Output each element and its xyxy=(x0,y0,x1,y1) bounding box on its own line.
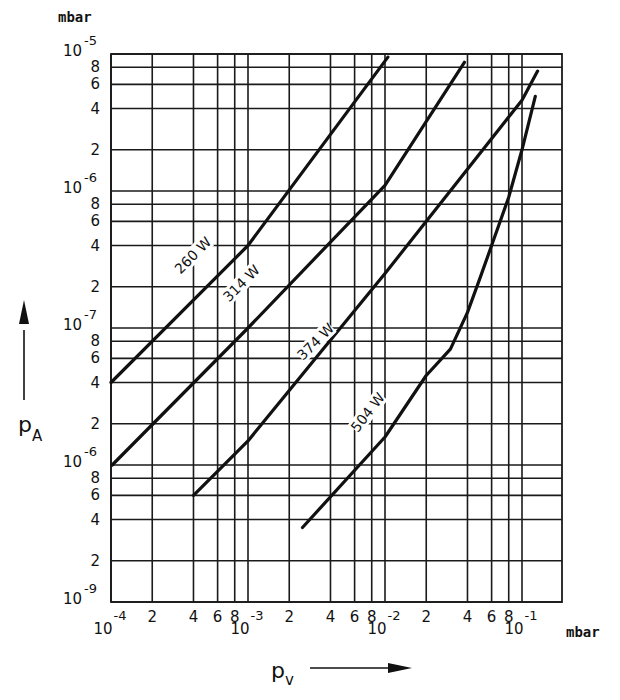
y-tick-label: 4 xyxy=(90,511,100,529)
y-tick-exponent: -5 xyxy=(84,33,97,48)
y-axis-arrow-icon xyxy=(19,300,29,324)
x-tick-label: 2 xyxy=(147,608,157,626)
curve-labels: 260 W314 W374 W504 W xyxy=(171,234,388,435)
chart: 260 W314 W374 W504 W 10-4246810-3246810-… xyxy=(0,0,620,700)
x-tick-label: 4 xyxy=(463,608,473,626)
y-unit-label: mbar xyxy=(58,9,92,25)
y-tick-exponent: -7 xyxy=(84,307,97,322)
y-tick-label: 10 xyxy=(63,179,82,197)
curve-label: 504 W xyxy=(348,390,388,435)
y-tick-label: 6 xyxy=(90,349,100,367)
y-tick-label: 10 xyxy=(63,590,82,608)
y-tick-label: 4 xyxy=(90,237,100,255)
y-tick-label: 8 xyxy=(90,195,100,213)
curve-504w xyxy=(303,96,536,527)
x-tick-label: 4 xyxy=(326,608,336,626)
x-tick-exponent: -1 xyxy=(525,608,538,623)
y-tick-label: 4 xyxy=(90,100,100,118)
y-axis-label: pA xyxy=(18,412,43,445)
y-tick-label: 2 xyxy=(90,552,100,570)
x-tick-label: 6 xyxy=(350,608,360,626)
x-tick-label: 4 xyxy=(189,608,199,626)
y-tick-label: 10 xyxy=(63,42,82,60)
x-tick-label: 6 xyxy=(213,608,223,626)
x-tick-label: 2 xyxy=(421,608,431,626)
y-tick-label: 8 xyxy=(90,332,100,350)
y-tick-label: 6 xyxy=(90,212,100,230)
y-tick-label: 2 xyxy=(90,278,100,296)
y-tick-label: 2 xyxy=(90,141,100,159)
y-axis-ticks: 10-5864210-6864210-7864210-6864210-9 xyxy=(63,33,100,608)
x-axis-title: pv xyxy=(271,658,412,689)
y-tick-label: 8 xyxy=(90,469,100,487)
y-tick-label: 6 xyxy=(90,75,100,93)
y-tick-label: 4 xyxy=(90,374,100,392)
y-tick-exponent: -9 xyxy=(84,581,97,596)
y-axis-title: pA xyxy=(18,300,43,445)
x-tick-exponent: -3 xyxy=(251,608,264,623)
y-tick-label: 6 xyxy=(90,486,100,504)
x-tick-label: 10 xyxy=(93,620,112,638)
curves xyxy=(111,57,538,527)
y-tick-label: 10 xyxy=(63,453,82,471)
x-axis-arrow-icon xyxy=(388,663,412,673)
curve-314w xyxy=(112,62,464,465)
y-tick-exponent: -6 xyxy=(84,170,97,185)
x-tick-exponent: -2 xyxy=(388,608,401,623)
x-unit-label: mbar xyxy=(566,624,600,640)
x-tick-label: 6 xyxy=(487,608,497,626)
x-tick-label: 10 xyxy=(504,620,523,638)
y-tick-label: 10 xyxy=(63,316,82,334)
x-tick-exponent: -4 xyxy=(114,608,127,623)
x-tick-label: 10 xyxy=(230,620,249,638)
x-axis-ticks: 10-4246810-3246810-2246810-1 xyxy=(93,608,537,638)
x-tick-label: 10 xyxy=(367,620,386,638)
y-tick-exponent: -6 xyxy=(84,444,97,459)
x-tick-label: 2 xyxy=(284,608,294,626)
y-tick-label: 2 xyxy=(90,415,100,433)
y-tick-label: 8 xyxy=(90,58,100,76)
x-axis-label: pv xyxy=(271,658,294,689)
